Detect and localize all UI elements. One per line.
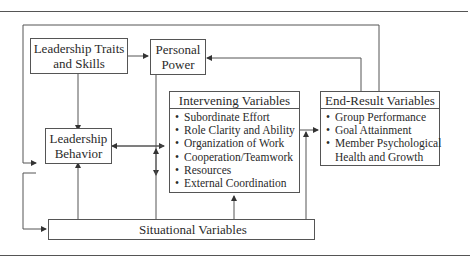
intervening-list: •Subordinate Effort •Role Clarity and Ab… [170,109,299,190]
end-result-variables-box: End-Result Variables •Group Performance … [320,91,440,166]
traits-line-2: and Skills [53,56,105,71]
intervening-item: •External Coordination [175,177,299,190]
leadership-traits-box: Leadership Traits and Skills [30,38,128,74]
intervening-item: •Subordinate Effort [175,111,299,124]
end-result-item: •Member Psychological [326,137,439,150]
end-result-list: •Group Performance •Goal Attainment •Mem… [321,109,439,164]
power-line-2: Power [161,57,194,72]
intervening-title: Intervening Variables [170,92,299,109]
intervening-item: •Resources [175,164,299,177]
end-result-title: End-Result Variables [321,92,439,109]
intervening-item: •Organization of Work [175,137,299,150]
intervening-variables-box: Intervening Variables •Subordinate Effor… [169,91,300,193]
end-result-item: •Goal Attainment [326,124,439,137]
situational-variables-box: Situational Variables [48,219,315,240]
traits-line-1: Leadership Traits [34,41,125,56]
intervening-item: •Cooperation/Teamwork [175,151,299,164]
situational-label: Situational Variables [139,222,247,237]
leadership-behavior-box: Leadership Behavior [45,128,112,164]
behavior-line-1: Leadership [50,131,108,146]
power-line-1: Personal [156,42,201,57]
intervening-item: •Role Clarity and Ability [175,124,299,137]
end-result-item-continued: Health and Growth [326,151,439,164]
end-result-item: •Group Performance [326,111,439,124]
behavior-line-2: Behavior [55,146,103,161]
personal-power-box: Personal Power [150,39,206,75]
